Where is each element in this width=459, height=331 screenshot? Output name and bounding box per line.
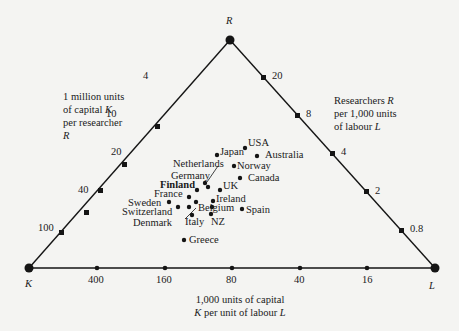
right-tick-20: 20 (272, 70, 283, 82)
bottom-tick-16: 16 (362, 274, 373, 286)
point-switzerland (176, 205, 180, 209)
left-tick-100: 100 (38, 222, 54, 234)
right-tick-0-8: 0.8 (410, 223, 423, 235)
vertex-l-dot (431, 264, 440, 273)
bottom-tick-80: 80 (226, 274, 237, 286)
right-tick-8: 8 (306, 108, 311, 120)
label-norway: Norway (237, 160, 271, 172)
label-nz: NZ (211, 216, 225, 228)
vertex-r-dot (226, 36, 235, 45)
bottom-tick-40: 40 (294, 274, 305, 286)
point-norway (232, 164, 236, 168)
label-belgium: Belgium (198, 202, 234, 214)
left-tick-10: 10 (106, 108, 117, 120)
vertex-label-r: R (226, 15, 232, 26)
label-canada: Canada (248, 172, 280, 184)
label-greece: Greece (189, 234, 219, 246)
label-usa: USA (248, 137, 269, 149)
point-japan (215, 153, 219, 157)
point-germany (206, 185, 210, 189)
vertex-label-k: K (25, 278, 32, 289)
point-france (187, 195, 191, 199)
label-netherlands: Netherlands (173, 158, 224, 170)
left-tick-4: 4 (143, 70, 148, 82)
label-denmark: Denmark (133, 217, 172, 229)
right-tick-4: 4 (341, 146, 346, 158)
right-tick-2: 2 (375, 185, 380, 197)
vertex-label-l: L (429, 280, 435, 291)
left-tick-40: 40 (78, 184, 89, 196)
left-tick-20: 20 (111, 146, 122, 158)
bottom-tick-400: 400 (88, 274, 104, 286)
point-canada (238, 176, 242, 180)
bottom-axis-note: 1,000 units of capital K per unit of lab… (190, 293, 290, 319)
bottom-tick-160: 160 (156, 274, 172, 286)
label-japan: Japan (220, 146, 244, 158)
point-australia (255, 154, 259, 158)
point-belgium-left (187, 205, 191, 209)
vertex-k-dot (25, 264, 34, 273)
label-spain: Spain (246, 204, 270, 216)
right-axis-note: Researchers R per 1,000 units of labour … (334, 94, 397, 133)
point-spain (240, 207, 244, 211)
point-greece (182, 238, 186, 242)
label-uk: UK (223, 180, 238, 192)
point-uk (218, 188, 222, 192)
point-sweden (167, 200, 171, 204)
point-finland (195, 188, 199, 192)
label-italy: Italy (185, 216, 204, 228)
